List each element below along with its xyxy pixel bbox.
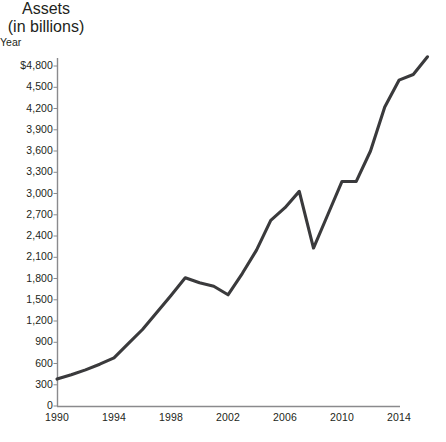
data-series-line xyxy=(57,57,428,379)
line-chart: Assets (in billions) $4,8004,5004,2003,9… xyxy=(0,0,446,442)
plot-area xyxy=(0,0,446,442)
